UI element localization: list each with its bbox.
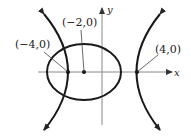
conic-diagram: x y (−4,0) (−2,0) (4,0) bbox=[0, 0, 191, 140]
label-minus2-0: (−2,0) bbox=[62, 16, 97, 29]
leader-4 bbox=[137, 55, 158, 72]
label-4-0: (4,0) bbox=[155, 43, 181, 56]
label-minus4-0: (−4,0) bbox=[15, 38, 50, 51]
x-axis-label: x bbox=[174, 67, 180, 78]
y-axis-label: y bbox=[106, 4, 113, 15]
leader-minus2 bbox=[81, 30, 84, 72]
